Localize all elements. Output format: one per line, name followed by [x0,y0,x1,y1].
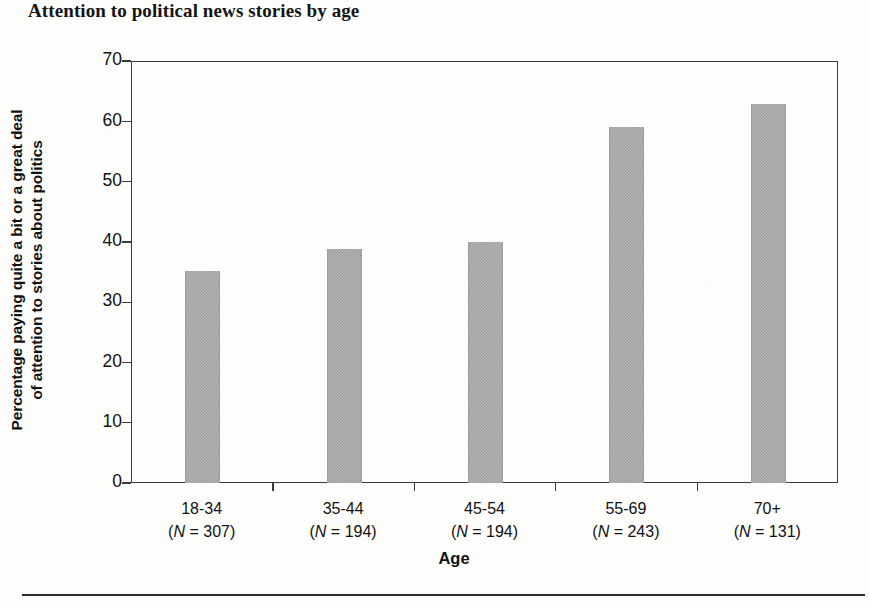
plot-area [131,61,838,483]
x-category-name: 45-54 [410,497,560,520]
x-tick-mark [555,483,556,491]
bar-18-34 [185,271,220,483]
bar-35-44 [327,249,362,483]
x-tick-mark [272,483,273,491]
x-category-name: 18-34 [127,497,277,520]
bar-55-69 [609,127,644,483]
y-tick-mark [122,482,131,483]
x-category-label-55-69: 55-69(N = 243) [551,497,701,543]
y-tick-mark [122,241,131,242]
x-category-name: 70+ [692,497,842,520]
x-axis-title-text: Age [438,549,469,568]
y-axis-title-line-1: Percentage paying quite a bit or a great… [7,109,27,430]
chart-title: Attention to political news stories by a… [28,0,359,22]
x-tick-mark [414,483,415,491]
x-category-label-35-44: 35-44(N = 194) [268,497,418,543]
x-category-sample-size: (N = 307) [127,520,277,543]
bar-45-54 [468,242,503,483]
y-tick-mark [122,181,131,182]
x-category-name: 35-44 [268,497,418,520]
y-tick-mark [122,362,131,363]
x-category-sample-size: (N = 194) [410,520,560,543]
x-category-sample-size: (N = 243) [551,520,701,543]
y-tick-mark [122,422,131,423]
bar-70+ [751,104,786,483]
y-tick-mark [122,121,131,122]
y-axis-title: Percentage paying quite a bit or a great… [0,52,54,488]
x-axis-title: Age [0,549,870,568]
x-category-label-18-34: 18-34(N = 307) [127,497,277,543]
y-tick-mark [122,302,131,303]
x-category-sample-size: (N = 131) [692,520,842,543]
x-tick-mark [697,483,698,491]
bottom-divider-rule [22,594,865,596]
y-axis-title-line-2: of attention to stories about politics [27,109,47,430]
x-category-label-70+: 70+(N = 131) [692,497,842,543]
y-tick-mark [122,60,131,61]
x-category-label-45-54: 45-54(N = 194) [410,497,560,543]
x-category-sample-size: (N = 194) [268,520,418,543]
x-category-name: 55-69 [551,497,701,520]
